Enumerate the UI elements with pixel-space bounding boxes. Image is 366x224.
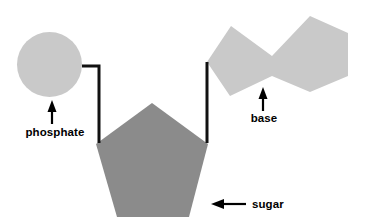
- label-phosphate: phosphate: [25, 126, 84, 138]
- nucleotide-diagram: phosphate base sugar: [0, 0, 366, 224]
- label-sugar: sugar: [252, 198, 284, 210]
- nucleotide-diagram-canvas: phosphate base sugar: [0, 0, 366, 224]
- circle-icon-phosphate: [17, 32, 82, 97]
- label-base: base: [251, 112, 278, 124]
